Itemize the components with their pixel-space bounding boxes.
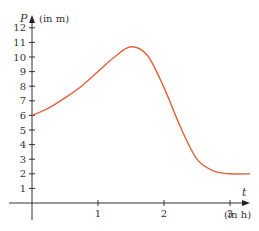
y-tick-label: 3: [20, 154, 26, 165]
y-tick-label: 4: [20, 139, 26, 150]
chart: 123 123456789101112 P (in m) t (in h): [0, 0, 259, 231]
y-tick-label: 7: [20, 95, 26, 106]
y-tick-label: 6: [20, 110, 26, 121]
series-line: [32, 47, 250, 174]
y-tick-label: 2: [20, 168, 26, 179]
y-tick-label: 5: [20, 125, 26, 136]
x-tick-label: 1: [95, 208, 101, 219]
y-tick-label: 10: [13, 52, 26, 63]
x-axis-variable: t: [242, 186, 247, 199]
axes: [9, 15, 250, 220]
y-tick-label: 1: [20, 183, 26, 194]
y-axis-arrow-icon: [29, 15, 35, 23]
y-tick-label: 9: [20, 66, 26, 77]
y-axis-unit: (in m): [39, 13, 69, 24]
y-axis-variable: P: [19, 12, 28, 25]
y-tick-label: 8: [20, 81, 26, 92]
x-tick-label: 2: [161, 208, 167, 219]
x-axis-unit: (in h): [224, 209, 251, 220]
y-tick-label: 11: [13, 37, 26, 48]
x-axis-arrow-icon: [242, 200, 250, 206]
